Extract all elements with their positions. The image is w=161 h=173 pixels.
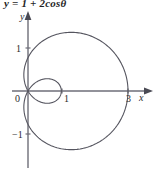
y-tick-label-1: 1 [16, 43, 21, 54]
y-tick-label-neg1: −1 [12, 129, 23, 140]
x-axis [12, 88, 153, 95]
x-tick-label-1: 1 [64, 93, 69, 104]
origin-label: 0 [15, 93, 20, 104]
y-axis [25, 11, 32, 168]
x-axis-arrow-icon [144, 88, 153, 95]
x-axis-label: x [138, 92, 144, 103]
polar-plot-figure: y = 1 + 2cosθ 0 1 3 x 1 −1 [0, 0, 161, 173]
y-axis-arrow-icon [25, 11, 32, 20]
x-tick-label-3: 3 [126, 93, 131, 104]
limacon-plot: 0 1 3 x 1 −1 y [0, 0, 161, 173]
y-axis-label: y [19, 11, 25, 22]
